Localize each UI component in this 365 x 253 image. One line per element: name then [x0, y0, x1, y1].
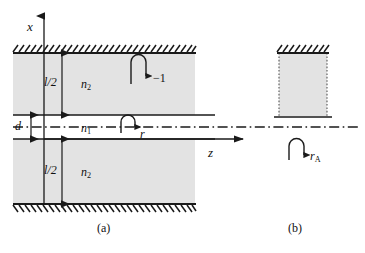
half-slab-region [279, 53, 327, 116]
x-axis-label: x [27, 20, 33, 33]
lower-cladding-index-label: n2 [81, 166, 91, 180]
lower-cladding-region [13, 139, 195, 204]
antisymmetric-reflection-subscript: A [315, 155, 321, 164]
upper-half-l-label: l/2 [44, 76, 57, 88]
lower-half-l-label: l/2 [44, 164, 57, 176]
core-d-label: d [15, 120, 21, 132]
top-wall-hatch [13, 45, 196, 52]
core-index-subscript: 1 [87, 127, 91, 136]
antisymmetric-reflection-arrow [289, 139, 304, 161]
bottom-wall-hatch [13, 205, 196, 212]
core-reflection-label: r [140, 128, 145, 140]
wall-reflection-label: −1 [153, 72, 166, 84]
panel-b [274, 45, 332, 160]
waveguide-figure [0, 0, 365, 253]
antisymmetric-reflection-label: rA [310, 150, 321, 164]
upper-cladding-index-subscript: 2 [87, 83, 91, 92]
panel-b-caption: (b) [288, 222, 302, 234]
core-index-label: n1 [81, 122, 91, 136]
panel-a [13, 16, 243, 212]
panel-a-caption: (a) [97, 222, 110, 234]
panel-b-top-wall-hatch [277, 45, 329, 52]
upper-cladding-region [13, 53, 195, 115]
upper-cladding-index-label: n2 [81, 78, 91, 92]
z-axis-label: z [208, 146, 213, 159]
lower-cladding-index-subscript: 2 [87, 171, 91, 180]
